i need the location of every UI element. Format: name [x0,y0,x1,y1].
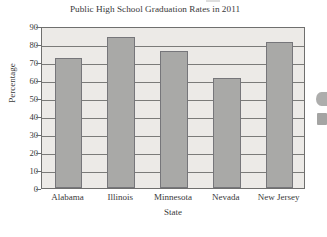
y-tick-label: 20 [12,149,38,158]
x-tick-label: Nevada [199,192,252,202]
y-tick-label: 90 [12,23,38,32]
bar-series [42,28,304,188]
plot-area [41,27,305,189]
x-tick-label: New Jersey [252,192,305,202]
bar [213,78,240,188]
x-tick-label: Illinois [94,192,147,202]
bar [266,42,293,188]
y-tick-label: 70 [12,59,38,68]
scan-artifact-top-icon [206,0,220,2]
bar [107,37,134,188]
x-axis-title: State [41,207,305,217]
y-tick-label: 80 [12,41,38,50]
y-tick-label: 10 [12,167,38,176]
chart-title: Public High School Graduation Rates in 2… [0,4,310,14]
y-tick-mark [36,189,41,190]
scan-artifact-right-lower-icon [317,113,327,125]
y-tick-label: 60 [12,77,38,86]
bar [55,58,82,188]
bar [160,51,187,188]
scan-artifact-right-upper-icon [316,92,327,106]
x-tick-label: Minnesota [147,192,200,202]
y-tick-label: 50 [12,95,38,104]
y-tick-label: 30 [12,131,38,140]
y-tick-label: 0 [12,185,38,194]
y-tick-label: 40 [12,113,38,122]
chart-figure: Public High School Graduation Rates in 2… [0,0,327,237]
x-tick-label: Alabama [41,192,94,202]
